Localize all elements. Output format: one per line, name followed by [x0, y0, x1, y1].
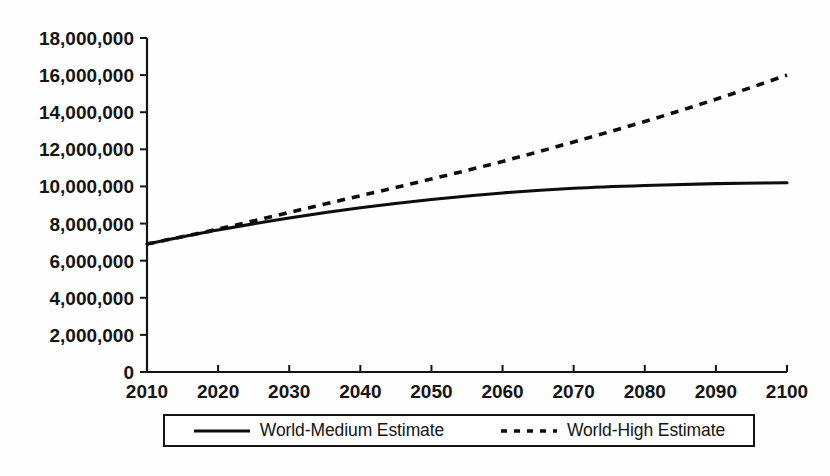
x-axis-tick-label: 2100 — [766, 381, 808, 402]
chart-legend: World-Medium Estimate World-High Estimat… — [163, 414, 755, 447]
legend-solid-line-icon — [193, 424, 251, 438]
y-axis-tick-label: 14,000,000 — [39, 102, 134, 123]
legend-label-world-high-estimate: World-High Estimate — [567, 420, 725, 441]
y-axis-tick-label: 6,000,000 — [49, 251, 134, 272]
x-axis-tick-label: 2090 — [695, 381, 737, 402]
y-axis-tick-label: 12,000,000 — [39, 139, 134, 160]
x-axis-tick-label: 2040 — [339, 381, 381, 402]
legend-label-world-medium-estimate: World-Medium Estimate — [260, 420, 444, 441]
x-axis-tick-label-group: 2010202020302040205020602070208020902100 — [126, 381, 808, 402]
x-axis-tick-label: 2030 — [268, 381, 310, 402]
series-line-world-high-estimate — [147, 75, 787, 244]
x-axis-tick-label: 2070 — [553, 381, 595, 402]
x-axis-tick-label: 2010 — [126, 381, 168, 402]
y-axis-tick-label: 10,000,000 — [39, 176, 134, 197]
y-axis-tick-label: 8,000,000 — [49, 214, 134, 235]
y-axis-tick-label: 16,000,000 — [39, 65, 134, 86]
y-axis-tick-label-group: 02,000,0004,000,0006,000,0008,000,00010,… — [39, 28, 134, 383]
x-axis-tick-label: 2060 — [481, 381, 523, 402]
y-axis-tick-label: 18,000,000 — [39, 28, 134, 49]
legend-entry-world-medium-estimate: World-Medium Estimate — [189, 420, 448, 441]
y-axis-tick-label: 0 — [123, 362, 134, 383]
legend-entry-world-high-estimate: World-High Estimate — [496, 420, 729, 441]
x-axis-tick-label: 2020 — [197, 381, 239, 402]
legend-dashed-line-icon — [500, 424, 558, 438]
x-axis-tick-label: 2080 — [624, 381, 666, 402]
y-axis-tick-label: 2,000,000 — [49, 325, 134, 346]
x-axis-tick-label: 2050 — [410, 381, 452, 402]
population-projection-chart: 02,000,0004,000,0006,000,0008,000,00010,… — [0, 0, 830, 476]
chart-plot-area: 02,000,0004,000,0006,000,0008,000,00010,… — [0, 0, 830, 476]
series-line-world-medium-estimate — [147, 183, 787, 244]
y-axis-tick-label: 4,000,000 — [49, 288, 134, 309]
